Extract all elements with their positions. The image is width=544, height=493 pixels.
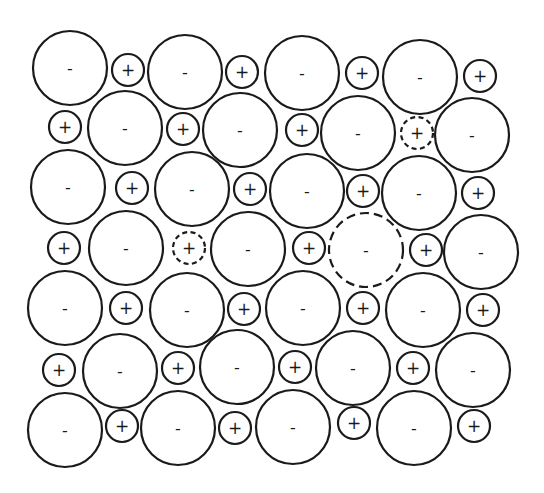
- minus-charge-label: -: [122, 119, 128, 138]
- minus-charge-label: -: [417, 68, 423, 87]
- plus-charge-label: +: [171, 358, 185, 378]
- plus-charge-label: +: [182, 238, 196, 258]
- minus-charge-label: -: [355, 124, 361, 143]
- minus-charge-label: -: [65, 178, 71, 197]
- minus-charge-label: -: [189, 180, 195, 199]
- minus-charge-label: -: [62, 421, 68, 440]
- plus-charge-label: +: [58, 117, 72, 137]
- minus-charge-label: -: [478, 243, 484, 262]
- minus-charge-label: -: [245, 240, 251, 259]
- plus-charge-label: +: [228, 418, 242, 438]
- plus-charge-label: +: [119, 298, 133, 318]
- minus-charge-label: -: [299, 64, 305, 83]
- minus-charge-label: -: [350, 359, 356, 378]
- minus-charge-label: -: [184, 301, 190, 320]
- plus-charge-label: +: [410, 123, 424, 143]
- plus-charge-label: +: [406, 358, 420, 378]
- plus-charge-label: +: [237, 299, 251, 319]
- plus-charge-label: +: [125, 178, 139, 198]
- plus-charge-label: +: [302, 238, 316, 258]
- plus-charge-label: +: [57, 238, 71, 258]
- minus-charge-label: -: [237, 121, 243, 140]
- minus-charge-label: -: [411, 419, 417, 438]
- plus-charge-label: +: [176, 119, 190, 139]
- minus-charge-label: -: [300, 299, 306, 318]
- minus-charge-label: -: [416, 184, 422, 203]
- plus-charge-label: +: [121, 60, 135, 80]
- plus-charge-label: +: [52, 360, 66, 380]
- plus-charge-label: +: [115, 416, 129, 436]
- plus-charge-label: +: [471, 183, 485, 203]
- plus-charge-label: +: [347, 413, 361, 433]
- plus-charge-label: +: [235, 62, 249, 82]
- plus-charge-label: +: [476, 300, 490, 320]
- plus-charge-label: +: [288, 357, 302, 377]
- plus-charge-label: +: [356, 181, 370, 201]
- minus-charge-label: -: [470, 361, 476, 380]
- minus-charge-label: -: [62, 299, 68, 318]
- ionic-lattice-diagram: -+-+-+-++-+-+-+--+-+-+-++-+-+-+--+-+-+-+…: [0, 0, 544, 493]
- plus-charge-label: +: [473, 66, 487, 86]
- plus-charge-label: +: [467, 416, 481, 436]
- plus-charge-label: +: [419, 240, 433, 260]
- plus-charge-label: +: [243, 179, 257, 199]
- minus-charge-label: -: [304, 182, 310, 201]
- minus-charge-label: -: [469, 126, 475, 145]
- diagram-background: [0, 0, 544, 493]
- minus-charge-label: -: [123, 239, 129, 258]
- minus-charge-label: -: [117, 362, 123, 381]
- minus-charge-label: -: [67, 59, 73, 78]
- minus-charge-label: -: [175, 419, 181, 438]
- minus-charge-label: -: [363, 241, 369, 260]
- minus-charge-label: -: [420, 301, 426, 320]
- plus-charge-label: +: [355, 63, 369, 83]
- minus-charge-label: -: [234, 358, 240, 377]
- minus-charge-label: -: [290, 418, 296, 437]
- plus-charge-label: +: [295, 120, 309, 140]
- minus-charge-label: -: [182, 63, 188, 82]
- plus-charge-label: +: [356, 298, 370, 318]
